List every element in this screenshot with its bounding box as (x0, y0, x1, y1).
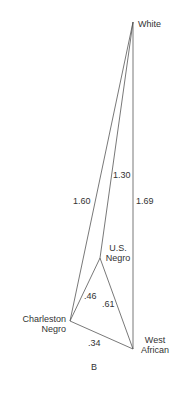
edge-label-charleston-westafrican: .34 (88, 338, 101, 348)
edge-label-white-westafrican: 1.69 (136, 196, 154, 206)
node-label-west-african: West African (138, 335, 172, 355)
edge-white-usnegro (100, 22, 133, 258)
node-label-charleston-negro: Charleston Negro (10, 314, 66, 334)
charleston-label-line1: Charleston (10, 314, 66, 324)
us-negro-label-line2: Negro (103, 253, 133, 263)
charleston-label-line2: Negro (10, 324, 66, 334)
node-label-us-negro: U.S. Negro (103, 243, 133, 263)
panel-label: B (91, 362, 97, 372)
edge-charleston-westafrican (70, 321, 133, 349)
us-negro-label-line1: U.S. (103, 243, 133, 253)
edge-label-white-charleston: 1.60 (73, 196, 91, 206)
edge-label-usnegro-charleston: .46 (84, 291, 97, 301)
white-label: White (138, 19, 161, 29)
node-label-white: White (138, 19, 161, 29)
edge-label-usnegro-westafrican: .61 (102, 299, 115, 309)
edge-label-white-usnegro: 1.30 (113, 170, 131, 180)
west-african-label-line2: African (138, 345, 172, 355)
edge-usnegro-charleston (70, 258, 100, 321)
west-african-label-line1: West (138, 335, 172, 345)
